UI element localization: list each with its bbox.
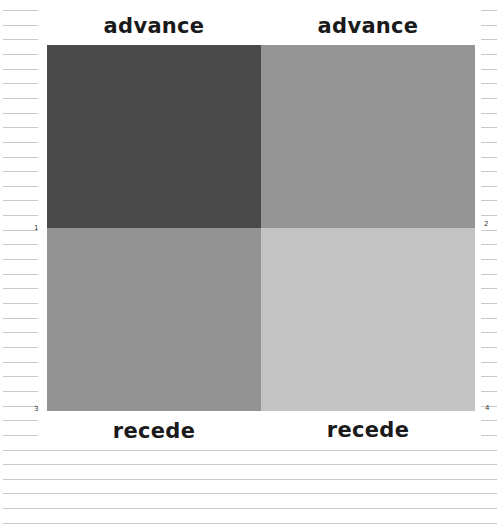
ruled-line — [481, 127, 497, 128]
ruled-line — [481, 215, 497, 216]
label-advance-left: advance — [47, 14, 261, 38]
margin-number-3: 3 — [34, 405, 38, 413]
ruled-line — [481, 259, 497, 260]
label-advance-right: advance — [261, 14, 475, 38]
ruled-line — [481, 391, 497, 392]
ruled-line — [481, 288, 497, 289]
margin-number-4: 4 — [485, 404, 489, 412]
ruled-line — [3, 215, 38, 216]
ruled-line — [3, 362, 38, 363]
ruled-line — [481, 303, 497, 304]
ruled-line — [3, 332, 38, 333]
ruled-line — [481, 83, 497, 84]
ruled-line — [3, 303, 38, 304]
quadrant-grid — [47, 45, 475, 411]
ruled-line — [481, 157, 497, 158]
ruled-line — [3, 523, 497, 524]
ruled-line — [3, 98, 38, 99]
ruled-line — [3, 157, 38, 158]
ruled-line — [3, 259, 38, 260]
ruled-line — [3, 435, 38, 436]
ruled-line — [481, 435, 497, 436]
quadrant-top-right — [261, 45, 475, 228]
ruled-line — [3, 347, 38, 348]
ruled-line — [3, 318, 38, 319]
ruled-line — [481, 347, 497, 348]
ruled-line — [481, 171, 497, 172]
ruled-line — [481, 244, 497, 245]
label-recede-right: recede — [261, 418, 475, 442]
ruled-line — [3, 450, 497, 451]
ruled-line — [481, 69, 497, 70]
ruled-line — [481, 142, 497, 143]
margin-number-2: 2 — [484, 220, 488, 228]
ruled-line — [3, 142, 38, 143]
ruled-line — [3, 25, 38, 26]
ruled-line — [3, 376, 38, 377]
ruled-line — [3, 464, 497, 465]
quadrant-bottom-right — [261, 228, 475, 411]
ruled-line — [3, 244, 38, 245]
ruled-line — [3, 113, 38, 114]
ruled-line — [3, 83, 38, 84]
ruled-line — [481, 113, 497, 114]
ruled-line — [3, 493, 497, 494]
ruled-line — [481, 362, 497, 363]
ruled-line — [481, 98, 497, 99]
ruled-line — [481, 200, 497, 201]
ruled-line — [481, 318, 497, 319]
ruled-line — [3, 420, 38, 421]
ruled-line — [3, 406, 38, 407]
ruled-line — [3, 274, 38, 275]
ruled-line — [481, 10, 497, 11]
ruled-line — [3, 127, 38, 128]
ruled-line — [3, 288, 38, 289]
ruled-line — [3, 391, 38, 392]
ruled-line — [481, 376, 497, 377]
margin-number-1: 1 — [34, 224, 38, 232]
ruled-line — [3, 230, 38, 231]
ruled-line — [3, 39, 38, 40]
ruled-line — [3, 479, 497, 480]
ruled-line — [481, 274, 497, 275]
ruled-line — [481, 186, 497, 187]
ruled-line — [3, 186, 38, 187]
ruled-line — [481, 332, 497, 333]
label-recede-left: recede — [47, 419, 261, 443]
ruled-line — [481, 230, 497, 231]
ruled-line — [481, 39, 497, 40]
quadrant-top-left — [47, 45, 261, 228]
ruled-line — [3, 54, 38, 55]
ruled-line — [481, 54, 497, 55]
quadrant-bottom-left — [47, 228, 261, 411]
ruled-line — [481, 25, 497, 26]
ruled-line — [3, 508, 497, 509]
ruled-line — [3, 171, 38, 172]
ruled-line — [3, 10, 38, 11]
ruled-line — [3, 69, 38, 70]
ruled-line — [481, 420, 497, 421]
ruled-line — [3, 200, 38, 201]
